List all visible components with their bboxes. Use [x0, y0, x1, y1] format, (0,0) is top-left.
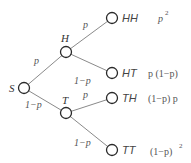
outcome-label-ht: HT	[122, 67, 138, 79]
outcome-prob-tt-exponent: 2	[179, 142, 183, 150]
edge-label-t-tt: 1−p	[74, 137, 91, 148]
node-tt	[107, 145, 118, 156]
node-t	[61, 108, 72, 119]
outcome-label-tt: TT	[122, 144, 137, 156]
edge-s-h	[24, 52, 66, 88]
edge-label-s-h: p	[33, 55, 39, 66]
node-label-h: H	[60, 32, 70, 44]
node-label-root: S	[9, 82, 15, 94]
edge-label-h-hh: p	[82, 19, 88, 30]
node-th	[107, 93, 118, 104]
edge-label-h-ht: 1−p	[74, 75, 91, 86]
node-hh	[107, 13, 118, 24]
edge-label-t-th: p	[82, 89, 88, 100]
node-ht	[107, 68, 118, 79]
outcome-prob-hh-exponent: 2	[165, 9, 169, 17]
outcome-prob-th: (1−p) p	[148, 93, 178, 105]
outcome-prob-ht: p (1−p)	[148, 68, 178, 80]
node-label-t: T	[62, 94, 69, 106]
outcome-label-th: TH	[122, 92, 137, 104]
edge-h-hh	[66, 18, 112, 52]
edge-h-ht	[66, 52, 112, 73]
outcome-label-hh: HH	[122, 12, 138, 24]
outcome-prob-hh: p	[157, 13, 163, 24]
edge-t-th	[66, 98, 112, 113]
edge-label-s-t: 1−p	[25, 99, 42, 110]
node-h	[61, 47, 72, 58]
outcome-prob-tt: (1−p)	[150, 146, 172, 158]
probability-tree-diagram: S H T p 1−p p 1−p p 1−p HH HT TH TT p 2 …	[0, 0, 191, 163]
tree-svg: S H T p 1−p p 1−p p 1−p HH HT TH TT p 2 …	[0, 0, 191, 163]
node-root	[19, 83, 30, 94]
